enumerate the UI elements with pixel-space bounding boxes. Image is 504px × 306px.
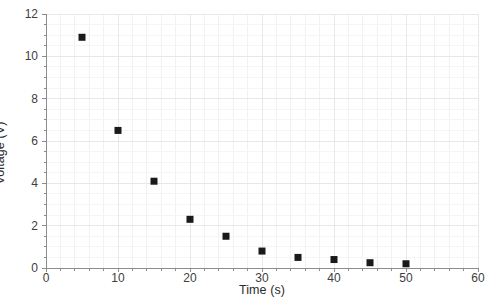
y-axis-tick-label: 8 [4, 92, 38, 106]
data-point-marker [223, 233, 230, 240]
data-point-marker [187, 216, 194, 223]
data-point-marker [151, 178, 158, 185]
y-axis-tick-label: 4 [4, 176, 38, 190]
scatter-chart: Voltage (V) 024681012 0102030405060 Time… [0, 0, 504, 306]
y-axis-tick-labels: 024681012 [0, 14, 38, 268]
data-point-marker [403, 260, 410, 267]
y-axis-tick-label: 10 [4, 49, 38, 63]
y-axis-tick-label: 2 [4, 219, 38, 233]
data-point-marker [259, 248, 266, 255]
data-point-marker [115, 127, 122, 134]
y-axis-tick-label: 6 [4, 134, 38, 148]
data-point-marker [331, 256, 338, 263]
y-axis-tick-label: 12 [4, 7, 38, 21]
data-point-marker [79, 34, 86, 41]
plot-area [46, 14, 478, 268]
data-point-marker [295, 254, 302, 261]
data-points-layer [46, 14, 478, 268]
data-point-marker [367, 259, 374, 266]
x-axis-title: Time (s) [46, 283, 478, 297]
